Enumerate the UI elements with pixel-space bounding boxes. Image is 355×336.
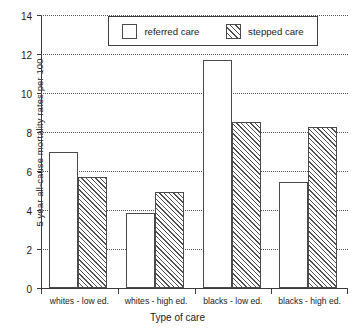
legend-item-stepped-care: stepped care [226,24,303,39]
x-tick-mark [347,288,348,294]
y-tick-label: 6 [26,167,32,178]
gridline [41,132,348,133]
y-tick-label: 0 [26,284,32,295]
bar-whites-low-ed--stepped-care [78,177,107,288]
y-tick-mark: 8 [37,132,41,133]
y-tick-mark: 12 [37,54,41,55]
y-tick-label: 10 [21,89,32,100]
x-category-label: blacks - high ed. [278,296,341,306]
legend-swatch-referred-care [122,24,137,39]
bar-whites-high-ed--stepped-care [155,192,184,288]
bar-chart: 5 year all-cause mortality rates per 100… [0,0,355,336]
legend-label-referred-care: referred care [144,26,199,37]
legend-item-referred-care: referred care [122,24,199,39]
bar-whites-high-ed--referred-care [126,213,155,288]
y-tick-label: 4 [26,206,32,217]
y-tick-label: 14 [21,11,32,22]
y-tick-mark: 4 [37,210,41,211]
x-axis-title: Type of care [0,312,355,323]
x-category-label: whites - high ed. [125,296,188,306]
x-tick-mark [41,288,42,294]
x-category-label: whites - low ed. [50,296,109,306]
bar-blacks-high-ed--stepped-care [308,127,337,288]
x-tick-mark [271,288,272,294]
plot-area: 02468101214 whites - low ed.whites - hig… [41,15,348,288]
bar-blacks-high-ed--referred-care [279,182,308,288]
bar-whites-low-ed--referred-care [49,152,78,289]
legend: referred care stepped care [108,16,318,46]
legend-swatch-stepped-care [226,24,241,39]
gridline [41,54,348,55]
legend-label-stepped-care: stepped care [248,26,303,37]
y-tick-label: 2 [26,245,32,256]
y-tick-mark: 14 [37,15,41,16]
y-tick-label: 12 [21,50,32,61]
y-tick-label: 8 [26,128,32,139]
bar-blacks-low-ed--stepped-care [232,122,261,288]
gridline [41,93,348,94]
x-category-label: blacks - low ed. [203,296,262,306]
bar-blacks-low-ed--referred-care [203,60,232,288]
y-tick-mark: 10 [37,93,41,94]
y-tick-mark: 2 [37,249,41,250]
gridline [41,171,348,172]
y-tick-mark: 6 [37,171,41,172]
x-tick-mark [118,288,119,294]
x-tick-mark [195,288,196,294]
y-axis-line [41,15,42,288]
